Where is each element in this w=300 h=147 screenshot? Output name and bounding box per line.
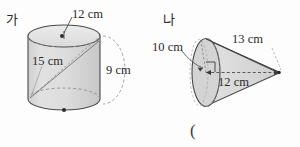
figure-label-cone: 나 [163, 13, 175, 26]
worksheet-figure-panel: 가 12 cm 15 cm 9 cm 나 10 cm 13 cm 12 cm ( [0, 0, 300, 147]
cylinder-diameter-label: 12 cm [72, 8, 103, 21]
figure-label-cylinder: 가 [6, 13, 18, 26]
cylinder-top-center-dot [60, 34, 64, 38]
cylinder-bottom-front-dot [62, 108, 66, 112]
cone-slant-label: 13 cm [232, 33, 263, 46]
slant-label-leader [272, 48, 281, 70]
geometry-drawing [0, 0, 300, 147]
cone-apex-dot [277, 71, 281, 75]
cylinder-diagonal-label: 15 cm [32, 55, 63, 68]
answer-open-paren: ( [190, 122, 196, 139]
cylinder-height-label: 9 cm [106, 64, 131, 77]
cone-height-label: 12 cm [218, 76, 249, 89]
cone-radius-label: 10 cm [152, 41, 183, 54]
